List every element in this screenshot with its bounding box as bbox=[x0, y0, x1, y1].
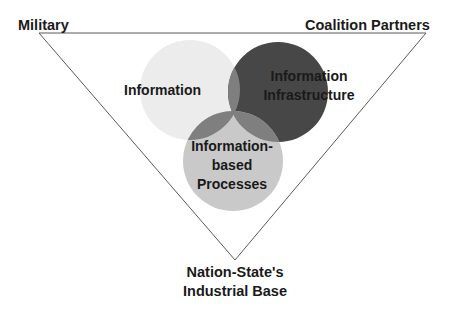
label-coalition-partners: Coalition Partners bbox=[305, 17, 430, 34]
label-processes-line2: based bbox=[182, 156, 282, 175]
label-military: Military bbox=[18, 17, 69, 34]
label-processes-line3: Processes bbox=[182, 175, 282, 194]
label-industrial-base-line1: Nation-State's bbox=[175, 263, 295, 282]
label-infrastructure-line2: Infrastructure bbox=[254, 86, 364, 105]
label-industrial-base-line2: Industrial Base bbox=[175, 282, 295, 301]
label-industrial-base: Nation-State's Industrial Base bbox=[175, 263, 295, 301]
label-information-based-processes: Information- based Processes bbox=[182, 137, 282, 194]
label-information: Information bbox=[124, 82, 201, 99]
label-infrastructure-line1: Information bbox=[254, 67, 364, 86]
label-processes-line1: Information- bbox=[182, 137, 282, 156]
label-information-infrastructure: Information Infrastructure bbox=[254, 67, 364, 105]
